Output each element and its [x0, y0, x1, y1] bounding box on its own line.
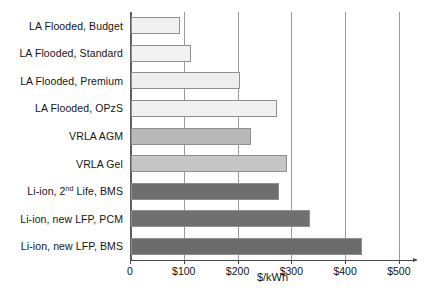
bar: [131, 210, 310, 227]
plot-area: 0$100$200$300$400$500: [130, 12, 415, 260]
bar: [131, 17, 180, 34]
gridline: [345, 12, 346, 260]
category-label: VRLA AGM: [0, 130, 123, 142]
gridline: [399, 12, 400, 260]
x-axis-tick: [291, 260, 292, 264]
bar: [131, 155, 287, 172]
category-label: LA Flooded, Premium: [0, 75, 123, 87]
bar: [131, 238, 362, 255]
category-label: LA Flooded, OPzS: [0, 102, 123, 114]
bar: [131, 45, 191, 62]
x-axis-title: $/kWh: [130, 271, 415, 284]
x-axis-line: [130, 260, 415, 261]
x-axis-arrow-icon: [413, 258, 418, 262]
category-label: Li-ion, new LFP, PCM: [0, 213, 123, 225]
x-axis-tick: [130, 260, 131, 264]
category-label: LA Flooded, Budget: [0, 20, 123, 32]
x-axis-tick: [238, 260, 239, 264]
category-axis-labels: LA Flooded, BudgetLA Flooded, StandardLA…: [0, 12, 128, 260]
bar: [131, 183, 279, 200]
bar: [131, 100, 277, 117]
category-label: Li-ion, 2nd Life, BMS: [0, 185, 123, 197]
x-axis-tick: [184, 260, 185, 264]
bar-chart: LA Flooded, BudgetLA Flooded, StandardLA…: [0, 0, 442, 304]
x-axis-tick: [345, 260, 346, 264]
category-label: Li-ion, new LFP, BMS: [0, 240, 123, 252]
bar: [131, 128, 251, 145]
bar: [131, 72, 240, 89]
x-axis-tick: [399, 260, 400, 264]
category-label: LA Flooded, Standard: [0, 47, 123, 59]
category-label: VRLA Gel: [0, 158, 123, 170]
